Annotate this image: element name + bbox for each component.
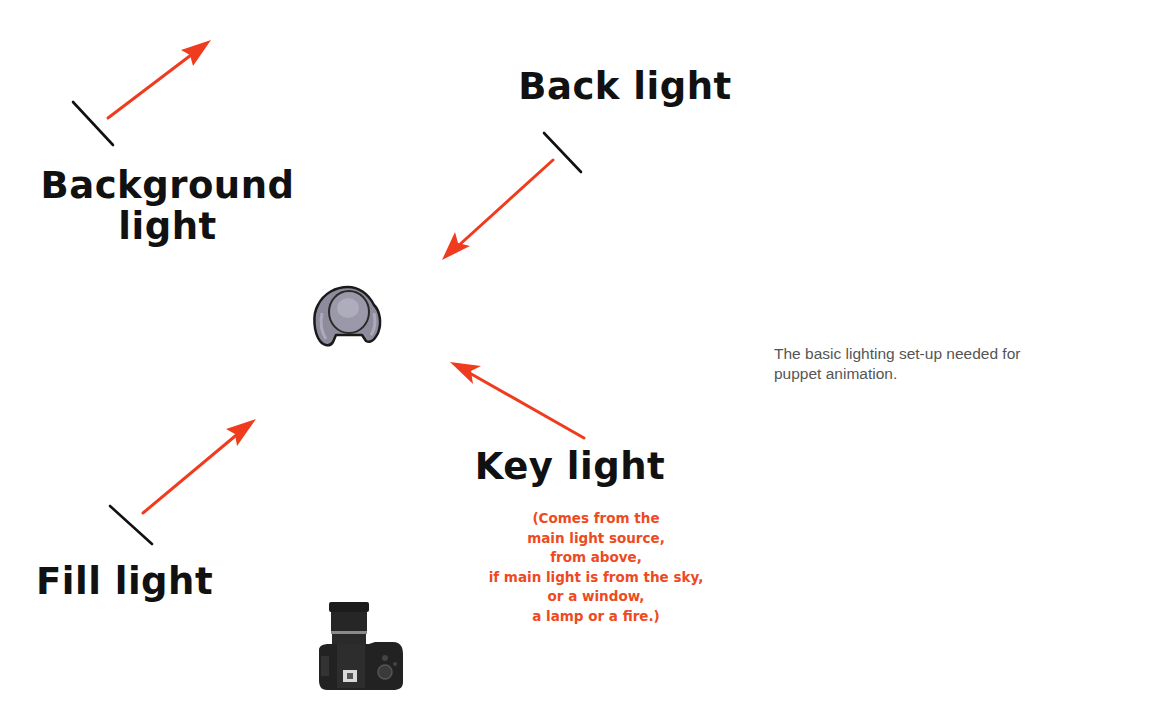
caption-line: The basic lighting set-up needed for: [774, 344, 1114, 364]
background-light-label: Background light: [40, 165, 295, 248]
key-light-note-line: main light source,: [446, 529, 746, 549]
key-light-note-line: from above,: [446, 548, 746, 568]
puppet-icon: [308, 283, 390, 355]
back-light-label: Back light: [510, 66, 740, 107]
camera-icon: [315, 598, 415, 698]
key-light-note-line: or a window,: [446, 587, 746, 607]
background-light-label-line2: light: [40, 206, 295, 247]
fill-light-label: Fill light: [36, 561, 236, 602]
key-light-note-line: (Comes from the: [446, 509, 746, 529]
key-light-note-line: if main light is from the sky,: [446, 568, 746, 588]
background-light-label-line1: Background: [40, 165, 295, 206]
back-light-arrow: [442, 160, 553, 260]
back-light-stand: [544, 133, 581, 172]
key-light-label: Key light: [470, 446, 670, 487]
background-light-stand: [73, 102, 113, 145]
key-light-note: (Comes from the main light source, from …: [446, 509, 746, 626]
fill-light-arrow: [143, 419, 256, 513]
key-light-arrow: [450, 362, 584, 438]
lighting-diagram: Background light Back light Key light Fi…: [0, 0, 1154, 725]
background-light-arrow: [108, 40, 211, 118]
key-light-note-line: a lamp or a fire.): [446, 607, 746, 627]
figure-caption: The basic lighting set-up needed for pup…: [774, 344, 1114, 384]
caption-line: puppet animation.: [774, 364, 1114, 384]
